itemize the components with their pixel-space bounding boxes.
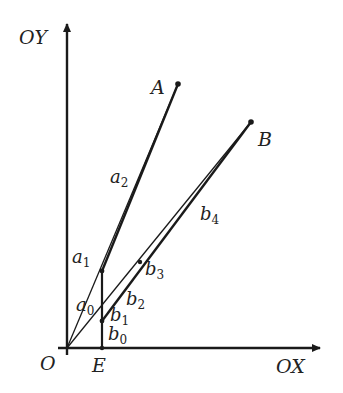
label-a: A [149, 76, 165, 98]
point-b1 [100, 319, 105, 324]
label-a0: a0 [76, 294, 94, 318]
label-origin: O [40, 352, 56, 374]
point-a1 [100, 269, 105, 274]
diagram-canvas: OY OX O E A B a2 a1 a0 b4 b3 b2 b1 b0 [0, 0, 343, 393]
point-b [248, 119, 254, 125]
line-o-b [67, 122, 251, 348]
label-a1: a1 [72, 246, 90, 270]
label-b2: b2 [126, 288, 145, 312]
label-b3: b3 [145, 258, 164, 282]
segment-b1-b [102, 122, 251, 321]
point-a [175, 81, 181, 87]
label-b4: b4 [200, 203, 220, 227]
point-e [100, 346, 104, 350]
y-axis-label: OY [19, 26, 50, 48]
x-axis-label: OX [276, 355, 306, 377]
label-b: B [257, 128, 272, 150]
label-e: E [91, 354, 106, 376]
point-b3 [138, 260, 142, 264]
label-a2: a2 [110, 166, 128, 190]
